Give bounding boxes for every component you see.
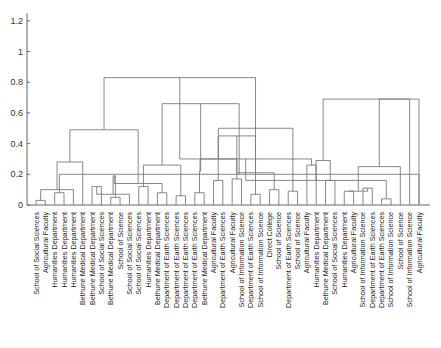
leaf-label: Department of Earth Sciences bbox=[246, 212, 255, 308]
leaf-label: School of Science bbox=[274, 212, 283, 270]
dendrogram-link bbox=[358, 167, 400, 205]
leaf-label: Agricultural Faculty bbox=[415, 212, 424, 274]
leaf-label: School of Information Science bbox=[386, 212, 395, 308]
dendrogram-link bbox=[176, 196, 185, 205]
dendrogram-link bbox=[180, 78, 312, 165]
y-tick-label: 0.2 bbox=[10, 169, 23, 179]
leaf-label: School of Information Science bbox=[405, 212, 414, 308]
dendrogram-link bbox=[323, 99, 419, 205]
dendrogram-link bbox=[70, 130, 138, 184]
dendrogram-link bbox=[382, 199, 391, 205]
leaf-label: Bethune Medical Department bbox=[153, 212, 162, 305]
dendrogram-link bbox=[307, 165, 316, 205]
leaf-label: Humanities Department bbox=[340, 212, 349, 288]
leaf-label: School of Science bbox=[396, 212, 405, 270]
y-tick-label: 0 bbox=[18, 200, 23, 210]
y-tick-label: 1.2 bbox=[10, 16, 23, 26]
leaf-label: Direct College bbox=[265, 212, 274, 257]
dendrogram-link bbox=[270, 190, 279, 205]
dendrogram-link bbox=[232, 179, 241, 205]
leaf-label: School of Social Sciences bbox=[32, 212, 41, 295]
leaf-label: Department of Earth Sciences bbox=[190, 212, 199, 308]
dendrogram-link bbox=[111, 197, 120, 205]
leaf-label: School of Information Science bbox=[237, 212, 246, 307]
leaf-label: Bethune Medical Department bbox=[78, 212, 87, 305]
leaf-label: Agricultural Faculty bbox=[349, 212, 358, 274]
dendrogram-link bbox=[251, 194, 260, 205]
leaf-label: Agricultural Faculty bbox=[302, 212, 311, 274]
dendrogram-link bbox=[316, 160, 330, 180]
leaf-label: Humanities Department bbox=[144, 212, 153, 288]
dendrogram-link bbox=[213, 180, 222, 205]
leaf-label: School of Information Science bbox=[358, 212, 367, 308]
leaf-label: School of Science bbox=[116, 212, 125, 270]
leaf-label: Bethune Medical Department bbox=[88, 212, 97, 305]
dendrogram-link bbox=[55, 193, 64, 205]
y-tick-label: 0.4 bbox=[10, 139, 23, 149]
leaf-label: Bethune Medical Department bbox=[321, 212, 330, 305]
y-tick-label: 1 bbox=[18, 47, 23, 57]
dendrogram-chart: 00.20.40.60.811.2 School of Social Scien… bbox=[0, 0, 441, 348]
dendrogram-link bbox=[288, 191, 297, 205]
leaf-label: Agricultural Faculty bbox=[41, 212, 50, 274]
leaf-label: Bethune Medical Department bbox=[200, 212, 209, 305]
leaf-label: Department of Earth Sciences bbox=[218, 212, 227, 308]
y-tick-label: 0.8 bbox=[10, 77, 23, 87]
dendrogram-link bbox=[344, 191, 353, 205]
leaf-label: School of Information Science bbox=[256, 212, 265, 308]
leaf-label: Humanities Department bbox=[50, 212, 59, 288]
dendrogram-link bbox=[157, 193, 166, 205]
leaf-label: Humanities Department bbox=[312, 212, 321, 288]
leaf-label: School of Social Sciences bbox=[97, 212, 106, 295]
leaf-label: School of Social Sciences bbox=[134, 212, 143, 295]
leaf-label: Agricultural Faculty bbox=[209, 212, 218, 274]
dendrogram-link bbox=[36, 200, 45, 205]
leaf-label: Department of Earth Sciences bbox=[284, 212, 293, 308]
dendrogram-link bbox=[379, 99, 409, 205]
dendrogram-link bbox=[326, 180, 335, 205]
leaf-label: Agricultural Faculty bbox=[228, 212, 237, 274]
y-tick-label: 0.6 bbox=[10, 108, 23, 118]
dendrogram-link bbox=[57, 162, 83, 205]
dendrogram-link bbox=[139, 187, 148, 205]
leaf-label: Department of Earth Sciences bbox=[181, 212, 190, 308]
leaf-label: School of Social Sciences bbox=[330, 212, 339, 295]
leaf-label: Humanities Department bbox=[60, 212, 69, 288]
leaf-label: Department of Earth Sciences bbox=[162, 212, 171, 308]
leaf-label: Bethune Medical Department bbox=[106, 212, 115, 305]
leaf-label: Department of Earth Sciences bbox=[377, 212, 386, 308]
leaf-labels: School of Social SciencesAgricultural Fa… bbox=[32, 212, 424, 308]
dendrogram-link bbox=[195, 193, 204, 205]
leaf-label: Department of Earth Sciences bbox=[368, 212, 377, 308]
leaf-label: Department of Earth Sciences bbox=[172, 212, 181, 308]
leaf-label: School of Social Sciences bbox=[125, 212, 134, 295]
leaf-label: School of Science bbox=[293, 212, 302, 270]
dendrogram-links bbox=[36, 78, 419, 205]
dendrogram-link bbox=[199, 104, 200, 193]
leaf-label: Humanities Department bbox=[69, 212, 78, 288]
